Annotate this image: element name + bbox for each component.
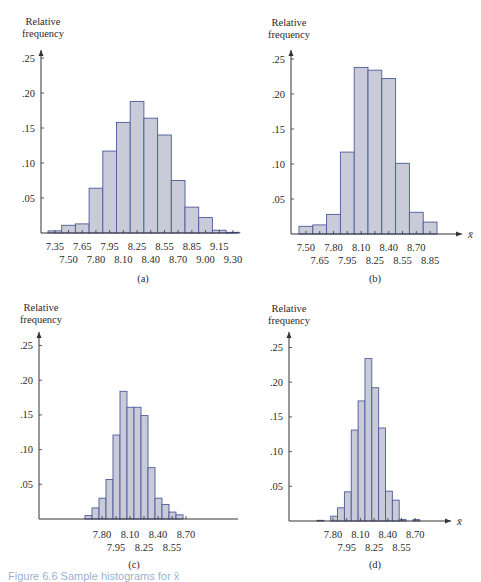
y-tick-label: .20 xyxy=(22,88,35,99)
x-tick-label: 7.65 xyxy=(73,241,91,252)
histogram-bar xyxy=(120,391,127,519)
y-tick-label: .25 xyxy=(272,54,285,65)
panel-label: (a) xyxy=(137,273,149,285)
x-tick-label: 7.95 xyxy=(100,241,118,252)
histogram-bar xyxy=(148,468,155,519)
y-tick-label: .20 xyxy=(20,375,33,386)
histogram-bar xyxy=(351,430,358,521)
histogram-bar xyxy=(141,416,148,519)
histogram-bar xyxy=(354,67,368,234)
histogram-c: .05.10.15.20.257.807.958.108.258.408.558… xyxy=(0,290,240,570)
histogram-bar xyxy=(338,508,345,521)
histogram-b: x̄.05.10.15.20.257.507.657.807.958.108.2… xyxy=(240,0,481,290)
y-tick-label: .20 xyxy=(270,377,283,388)
x-tick-label: 8.55 xyxy=(393,255,411,266)
histogram-bar xyxy=(340,152,354,234)
x-tick-label: 7.35 xyxy=(46,241,64,252)
x-tick-label: 7.95 xyxy=(107,542,125,553)
y-tick-label: .05 xyxy=(270,481,283,492)
x-tick-label: 8.10 xyxy=(352,242,370,253)
histogram-a: .05.10.15.20.257.357.507.657.807.958.108… xyxy=(0,0,240,290)
x-tick-label: 7.80 xyxy=(87,254,105,265)
histogram-bar xyxy=(176,515,183,519)
histogram-bar xyxy=(365,359,372,521)
histogram-d: x̄.05.10.15.20.257.807.958.108.258.408.5… xyxy=(240,290,481,570)
histogram-panel-b: Relative frequency x̄.05.10.15.20.257.50… xyxy=(240,0,481,290)
x-tick-label: 8.10 xyxy=(121,529,139,540)
x-tick-label: 8.85 xyxy=(183,241,201,252)
y-tick-label: .15 xyxy=(22,123,35,134)
y-tick-label: .05 xyxy=(22,193,35,204)
histogram-bar xyxy=(158,135,172,233)
x-tick-label: 8.10 xyxy=(351,529,369,540)
y-tick-label: .10 xyxy=(270,446,283,457)
histogram-bar xyxy=(117,122,131,233)
x-tick-label: 8.40 xyxy=(149,529,167,540)
x-axis-symbol: x̄ xyxy=(456,515,462,527)
y-tick-label: .10 xyxy=(20,444,33,455)
y-axis-arrow-icon xyxy=(39,50,44,56)
histogram-bar xyxy=(106,479,113,519)
x-tick-label: 8.25 xyxy=(128,241,146,252)
x-tick-label: 8.25 xyxy=(135,542,153,553)
histogram-bar xyxy=(127,407,134,519)
x-tick-label: 8.70 xyxy=(177,529,195,540)
histogram-bar xyxy=(144,118,158,233)
histogram-bar xyxy=(99,498,106,519)
y-tick-label: .15 xyxy=(270,411,283,422)
y-tick-label: .25 xyxy=(22,53,35,64)
histogram-bar xyxy=(409,212,423,234)
histogram-bar xyxy=(396,163,410,234)
x-tick-label: 8.55 xyxy=(163,542,181,553)
x-tick-label: 8.70 xyxy=(406,529,424,540)
histogram-bar xyxy=(89,188,103,233)
x-tick-label: 8.40 xyxy=(380,242,398,253)
histogram-bar xyxy=(386,491,393,521)
x-axis-symbol: x̄ xyxy=(467,228,473,240)
histogram-bar xyxy=(372,388,379,521)
figure-caption: Figure 6.6 Sample histograms for x̄ xyxy=(0,570,481,582)
histogram-bar xyxy=(92,508,99,519)
histogram-bar xyxy=(103,151,117,233)
x-tick-label: 8.70 xyxy=(407,242,425,253)
x-tick-label: 8.85 xyxy=(421,255,439,266)
histogram-bar xyxy=(130,101,144,233)
x-tick-label: 7.95 xyxy=(338,255,356,266)
histogram-bar xyxy=(185,207,199,233)
histogram-bar xyxy=(85,516,92,519)
y-axis-arrow-icon xyxy=(287,332,292,338)
y-tick-label: .05 xyxy=(272,194,285,205)
x-tick-label: 9.15 xyxy=(210,241,228,252)
x-tick-label: 7.80 xyxy=(324,529,342,540)
x-tick-label: 7.80 xyxy=(93,529,111,540)
y-tick-label: .20 xyxy=(272,89,285,100)
x-tick-label: 8.25 xyxy=(366,255,384,266)
x-tick-label: 7.80 xyxy=(324,242,342,253)
y-tick-label: .10 xyxy=(22,158,35,169)
y-tick-label: .25 xyxy=(20,340,33,351)
histogram-panel-d: Relative frequency x̄.05.10.15.20.257.80… xyxy=(240,290,481,570)
histogram-bar xyxy=(169,512,176,519)
y-tick-label: .15 xyxy=(20,409,33,420)
histogram-bar xyxy=(113,435,120,519)
histogram-bar xyxy=(368,70,382,234)
y-axis-arrow-icon xyxy=(289,50,294,56)
x-tick-label: 7.50 xyxy=(59,254,77,265)
x-tick-label: 8.55 xyxy=(155,241,173,252)
x-tick-label: 8.10 xyxy=(114,254,132,265)
histogram-bar xyxy=(134,407,141,519)
x-tick-label: 8.55 xyxy=(392,542,410,553)
x-tick-label: 8.70 xyxy=(169,254,187,265)
x-tick-label: 9.00 xyxy=(196,254,214,265)
y-tick-label: .15 xyxy=(272,124,285,135)
x-axis-arrow-icon xyxy=(445,519,451,524)
histogram-bar xyxy=(171,181,185,234)
histogram-panel-a: Relative frequency .05.10.15.20.257.357.… xyxy=(0,0,240,290)
y-tick-label: .10 xyxy=(272,159,285,170)
y-tick-label: .05 xyxy=(20,479,33,490)
histogram-bar xyxy=(358,401,365,521)
y-tick-label: .25 xyxy=(270,342,283,353)
histogram-panel-c: Relative frequency .05.10.15.20.257.807.… xyxy=(0,290,240,570)
panel-label: (b) xyxy=(369,273,382,285)
x-tick-label: 7.65 xyxy=(311,255,329,266)
